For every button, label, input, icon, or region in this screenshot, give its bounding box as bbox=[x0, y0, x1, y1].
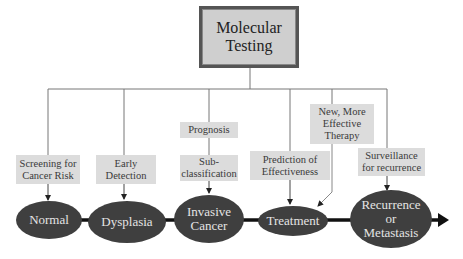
root-line2: Testing bbox=[226, 37, 273, 54]
root-line1: Molecular bbox=[216, 19, 282, 36]
stage-invasive-cancer: InvasiveCancer bbox=[174, 195, 244, 243]
stage-treatment: Treatment bbox=[258, 206, 328, 236]
stage-normal: Normal bbox=[16, 201, 82, 239]
surveillance-box: Surveillancefor recurrence bbox=[358, 148, 425, 176]
stage-dysplasia: Dysplasia bbox=[88, 201, 166, 243]
early-detection-box: EarlyDetection bbox=[96, 155, 156, 184]
screening-box: Screening forCancer Risk bbox=[16, 155, 80, 184]
stage-recurrence: RecurrenceorMetastasis bbox=[350, 190, 432, 248]
subclassification-box: Sub-classification bbox=[180, 155, 238, 181]
timeline-arrowhead-icon bbox=[438, 213, 449, 227]
molecular-testing-box: MolecularTesting bbox=[199, 6, 299, 68]
prediction-box: Prediction ofEffectiveness bbox=[250, 151, 330, 180]
prognosis-box: Prognosis bbox=[180, 122, 238, 138]
new-therapy-box: New, MoreEffectiveTherapy bbox=[310, 104, 374, 144]
